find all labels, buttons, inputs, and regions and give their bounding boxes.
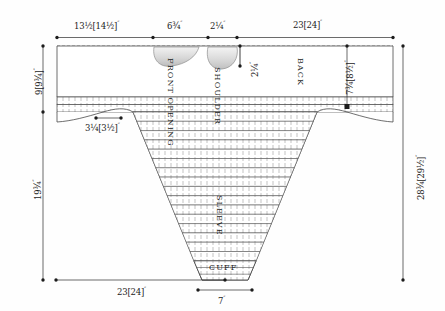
cuff-dimension-line xyxy=(196,288,253,291)
label-cuff: CUFF xyxy=(209,263,237,272)
dim-body-length: 19¾″ xyxy=(31,179,43,200)
bottom-body-dimension-line xyxy=(54,278,226,281)
dim-underarm-width: 3¼[3½]″ xyxy=(85,121,120,133)
top-dimension-line-group xyxy=(55,36,394,39)
chest-rib-band xyxy=(57,97,393,112)
garment-schematic-diagram: 13½[14½]″ 6¾″ 2¼″ 23[24]″ 9[9¾]″ 19¾″ 28… xyxy=(0,0,445,311)
underarm-dimension-line xyxy=(94,116,122,119)
right-dimension-line xyxy=(401,44,404,281)
label-front-opening: FRONT OPENING xyxy=(166,58,175,147)
dim-cuff-width: 7″ xyxy=(218,294,225,306)
label-shoulder: SHOULDER xyxy=(213,67,222,125)
dim-neck-depth: 2¼″ xyxy=(248,62,260,77)
sleeve-rib-rows xyxy=(133,112,317,261)
dim-total-length: 28¾[29½]″ xyxy=(414,155,426,200)
dim-lower-body-width: 23[24]″ xyxy=(117,285,146,297)
dim-back-width: 23[24]″ xyxy=(293,18,322,30)
dim-armhole-depth: 7¾[8½]″ xyxy=(343,60,355,95)
dim-shoulder-gap-width: 2¼″ xyxy=(210,19,225,31)
dim-yoke-depth: 9[9¾]″ xyxy=(32,68,44,95)
label-back: BACK xyxy=(296,58,305,86)
label-sleeve: SLEEVE xyxy=(215,195,224,236)
dim-left-body-width: 13½[14½]″ xyxy=(74,19,119,31)
dim-front-opening-width: 6¾″ xyxy=(167,19,182,31)
